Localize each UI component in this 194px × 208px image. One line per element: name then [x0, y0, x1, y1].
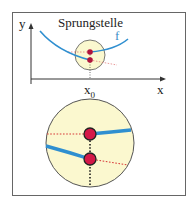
x-axis-label: x — [157, 83, 164, 96]
jump-point-upper-zoomed — [84, 128, 96, 140]
diagram-title: Sprungstelle — [58, 16, 123, 29]
diagram-graphics — [0, 0, 194, 208]
sprungstelle-diagram: Sprungstelle y x f x0 — [0, 0, 194, 208]
x0-label: x0 — [84, 83, 95, 100]
y-axis-label: y — [19, 17, 26, 30]
jump-point-upper — [87, 49, 93, 55]
jump-point-lower-zoomed — [84, 153, 96, 165]
function-label: f — [115, 29, 119, 42]
jump-point-lower — [87, 57, 93, 63]
